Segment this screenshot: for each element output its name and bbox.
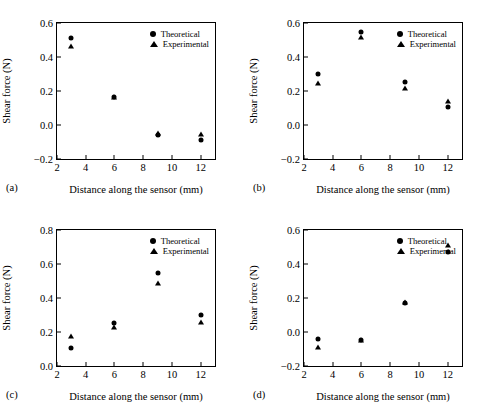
x-tick-label: 10 — [167, 162, 178, 173]
y-tick-mark — [304, 298, 308, 299]
triangle-marker-icon — [397, 41, 405, 47]
x-tick-mark — [418, 155, 419, 159]
x-tick-mark — [143, 155, 144, 159]
x-tick-label: 6 — [112, 369, 117, 380]
x-tick-label: 12 — [195, 162, 206, 173]
x-tick-mark — [200, 155, 201, 159]
y-tick-label: 0.2 — [287, 293, 300, 304]
y-tick-mark — [57, 264, 61, 265]
y-tick-mark — [57, 298, 61, 299]
y-tick-mark — [57, 125, 61, 126]
y-tick-mark — [304, 159, 308, 160]
x-tick-label: 6 — [359, 162, 364, 173]
y-tick-label: 0.0 — [287, 120, 300, 131]
y-axis-label-b: Shear force (N) — [248, 58, 259, 123]
y-tick-mark — [57, 159, 61, 160]
y-tick-mark — [57, 57, 61, 58]
plot-area-c: 0.00.20.40.60.824681012TheoreticalExperi… — [56, 229, 216, 367]
x-tick-label: 2 — [301, 162, 306, 173]
y-tick-label: −0.2 — [281, 361, 300, 372]
legend-label-theoretical: Theoretical — [408, 236, 447, 246]
x-tick-mark — [447, 155, 448, 159]
x-tick-mark — [57, 155, 58, 159]
panel-a: −0.20.00.20.40.624681012TheoreticalExper… — [0, 0, 247, 207]
y-tick-mark — [304, 264, 308, 265]
data-point-theoretical — [316, 72, 321, 77]
legend-label-theoretical: Theoretical — [161, 29, 200, 39]
x-tick-mark — [390, 155, 391, 159]
data-point-experimental — [358, 35, 364, 40]
legend-item-experimental: Experimental — [397, 39, 456, 49]
legend-item-experimental: Experimental — [150, 246, 209, 256]
x-tick-label: 8 — [141, 162, 146, 173]
x-tick-mark — [114, 155, 115, 159]
legend-label-experimental: Experimental — [163, 246, 209, 256]
x-tick-mark — [143, 362, 144, 366]
y-tick-label: 0.4 — [287, 52, 300, 63]
y-tick-label: 0.4 — [40, 293, 53, 304]
y-tick-label: 0.2 — [40, 86, 53, 97]
y-tick-label: 0.4 — [287, 259, 300, 270]
x-axis-label-a: Distance along the sensor (mm) — [69, 184, 203, 195]
data-point-theoretical — [69, 36, 74, 41]
x-tick-mark — [361, 362, 362, 366]
data-point-experimental — [198, 132, 204, 137]
y-tick-label: 0.0 — [40, 361, 53, 372]
x-tick-label: 10 — [414, 369, 425, 380]
y-tick-label: 0.0 — [40, 120, 53, 131]
x-tick-mark — [85, 155, 86, 159]
x-tick-label: 10 — [167, 369, 178, 380]
y-tick-label: 0.6 — [287, 225, 300, 236]
panel-c: 0.00.20.40.60.824681012TheoreticalExperi… — [0, 207, 247, 414]
x-tick-label: 2 — [301, 369, 306, 380]
x-tick-mark — [332, 362, 333, 366]
data-point-experimental — [402, 85, 408, 90]
x-tick-mark — [418, 362, 419, 366]
x-tick-mark — [85, 362, 86, 366]
y-tick-mark — [304, 91, 308, 92]
x-tick-label: 12 — [442, 369, 453, 380]
x-axis-label-c: Distance along the sensor (mm) — [69, 391, 203, 402]
legend-label-experimental: Experimental — [163, 39, 209, 49]
x-tick-mark — [304, 155, 305, 159]
plot-area-b: −0.20.00.20.40.624681012TheoreticalExper… — [303, 22, 463, 160]
x-tick-mark — [304, 362, 305, 366]
legend-label-theoretical: Theoretical — [161, 236, 200, 246]
x-tick-label: 6 — [112, 162, 117, 173]
y-tick-mark — [304, 366, 308, 367]
panel-label-b: (b) — [253, 182, 265, 193]
x-tick-label: 12 — [442, 162, 453, 173]
x-tick-label: 4 — [83, 162, 88, 173]
data-point-theoretical — [69, 346, 74, 351]
y-tick-mark — [57, 23, 61, 24]
panel-label-c: (c) — [6, 389, 18, 400]
data-point-experimental — [68, 334, 74, 339]
legend-item-experimental: Experimental — [150, 39, 209, 49]
data-point-theoretical — [402, 79, 407, 84]
y-tick-label: 0.2 — [40, 327, 53, 338]
legend-item-theoretical: Theoretical — [150, 29, 209, 39]
data-point-theoretical — [198, 313, 203, 318]
data-point-experimental — [358, 337, 364, 342]
x-axis-label-d: Distance along the sensor (mm) — [316, 391, 450, 402]
data-point-experimental — [111, 94, 117, 99]
y-tick-mark — [57, 91, 61, 92]
x-tick-mark — [200, 362, 201, 366]
x-tick-mark — [390, 362, 391, 366]
x-tick-mark — [332, 155, 333, 159]
x-tick-mark — [361, 155, 362, 159]
data-point-theoretical — [445, 250, 450, 255]
y-tick-mark — [304, 125, 308, 126]
circle-marker-icon — [150, 31, 156, 37]
data-point-theoretical — [155, 270, 160, 275]
data-point-experimental — [155, 130, 161, 135]
x-tick-mark — [447, 362, 448, 366]
circle-marker-icon — [397, 31, 403, 37]
x-tick-label: 2 — [54, 369, 59, 380]
circle-marker-icon — [397, 238, 403, 244]
data-point-experimental — [315, 345, 321, 350]
x-tick-label: 6 — [359, 369, 364, 380]
legend: TheoreticalExperimental — [150, 29, 209, 49]
y-tick-mark — [57, 366, 61, 367]
y-tick-mark — [57, 332, 61, 333]
